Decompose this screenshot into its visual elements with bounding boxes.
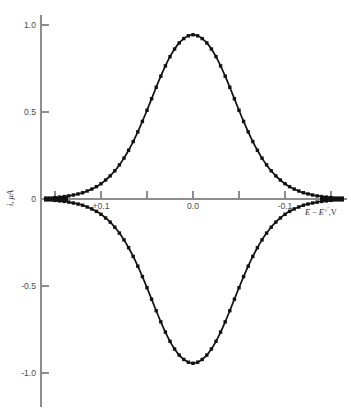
- cathodic-data-point: [113, 225, 116, 228]
- anodic-data-point: [104, 178, 107, 181]
- cathodic-data-point: [196, 361, 199, 364]
- anodic-data-point: [150, 97, 153, 100]
- x-axis-title-e1: E: [304, 208, 310, 217]
- anodic-data-point: [196, 34, 199, 37]
- anodic-data-point: [95, 185, 98, 188]
- y-axis-tick-label: -1.0: [21, 368, 36, 378]
- y-axis-tick-labels: 1.00.50-0.5-1.0: [21, 20, 36, 378]
- anodic-data-point: [127, 149, 130, 152]
- anodic-data-point: [237, 109, 240, 112]
- cathodic-data-point: [316, 200, 319, 203]
- anodic-data-point: [306, 192, 309, 195]
- x-axis-ticks: [55, 191, 331, 199]
- cathodic-data-point: [219, 330, 222, 333]
- anodic-data-point: [297, 189, 300, 192]
- anodic-data-point: [210, 47, 213, 50]
- anodic-data-point: [86, 189, 89, 192]
- y-axis-title: i, μA: [6, 189, 15, 206]
- cathodic-data-point: [141, 275, 144, 278]
- anodic-data-point: [141, 120, 144, 123]
- cathodic-data-point: [214, 340, 217, 343]
- anodic-data-point: [81, 191, 84, 194]
- cathodic-data-point: [90, 207, 93, 210]
- anodic-data-point: [136, 130, 139, 133]
- anodic-data-point: [256, 149, 259, 152]
- anodic-data-point: [122, 156, 125, 159]
- cathodic-data-point: [293, 207, 296, 210]
- anodic-data-point: [251, 140, 254, 143]
- anodic-data-point: [265, 163, 268, 166]
- cathodic-data-point: [104, 216, 107, 219]
- cathodic-data-point: [132, 255, 135, 258]
- cathodic-data-point: [99, 213, 102, 216]
- anodic-data-point: [90, 187, 93, 190]
- anodic-data-point: [260, 156, 263, 159]
- anodic-data-point: [274, 174, 277, 177]
- anodic-data-point: [228, 86, 231, 89]
- cathodic-data-point: [168, 340, 171, 343]
- cathodic-data-point: [95, 210, 98, 213]
- x-axis-title: E−E○′,V: [304, 206, 337, 217]
- x-axis-tick-labels: +0.10.0-0.1: [93, 201, 293, 211]
- cathodic-data-point: [201, 358, 204, 361]
- anodic-data-point: [109, 174, 112, 177]
- anodic-data-point: [99, 182, 102, 185]
- cathodic-data-point: [118, 231, 121, 234]
- anodic-data-point: [302, 191, 305, 194]
- cathodic-data-point: [283, 213, 286, 216]
- cathodic-data-point: [247, 264, 250, 267]
- x-axis-tick-label: 0.0: [187, 201, 199, 211]
- cathodic-wave-curve: [46, 200, 340, 363]
- anodic-data-point: [182, 37, 185, 40]
- anodic-data-point: [247, 130, 250, 133]
- cathodic-data-point: [182, 358, 185, 361]
- anodic-data-point: [279, 178, 282, 181]
- anodic-data-point: [214, 55, 217, 58]
- anodic-data-point: [201, 37, 204, 40]
- y-axis-tick-label: -0.5: [21, 281, 36, 291]
- cathodic-data-point: [256, 246, 259, 249]
- anodic-data-point: [316, 194, 319, 197]
- cathodic-data-point: [191, 362, 194, 365]
- cathodic-data-markers: [53, 199, 332, 365]
- cathodic-data-point: [127, 246, 130, 249]
- anodic-data-point: [219, 64, 222, 67]
- cathodic-data-point: [86, 205, 89, 208]
- cathodic-data-point: [274, 220, 277, 223]
- cathodic-data-point: [228, 309, 231, 312]
- anodic-data-point: [118, 163, 121, 166]
- anodic-data-point: [132, 140, 135, 143]
- cathodic-data-point: [81, 204, 84, 207]
- cathodic-data-point: [150, 298, 153, 301]
- cathodic-data-point: [159, 320, 162, 323]
- cathodic-data-point: [145, 286, 148, 289]
- cathodic-data-point: [302, 204, 305, 207]
- anodic-data-point: [293, 187, 296, 190]
- anodic-data-point: [178, 41, 181, 44]
- cathodic-data-point: [72, 201, 75, 204]
- anodic-data-point: [270, 169, 273, 172]
- cathodic-data-point: [155, 309, 158, 312]
- anodic-data-point: [187, 34, 190, 37]
- cathodic-data-point: [251, 255, 254, 258]
- voltammogram-plot: 1.00.50-0.5-1.0 +0.10.0-0.1 i, μA E−E○′,…: [0, 0, 351, 415]
- cathodic-data-point: [265, 231, 268, 234]
- cathodic-data-point: [109, 220, 112, 223]
- y-axis-tick-label: 0: [31, 194, 36, 204]
- anodic-data-point: [168, 55, 171, 58]
- anodic-data-point: [283, 182, 286, 185]
- cathodic-data-point: [260, 238, 263, 241]
- cathodic-data-point: [288, 210, 291, 213]
- cathodic-data-point: [233, 298, 236, 301]
- cathodic-data-point: [76, 202, 79, 205]
- cathodic-data-point: [297, 205, 300, 208]
- cathodic-data-point: [210, 347, 213, 350]
- anodic-data-point: [191, 33, 194, 36]
- cathodic-data-point: [279, 216, 282, 219]
- cathodic-data-point: [242, 275, 245, 278]
- anodic-data-point: [242, 120, 245, 123]
- y-axis-tick-label: 1.0: [24, 20, 36, 30]
- chart-figure: 1.00.50-0.5-1.0 +0.10.0-0.1 i, μA E−E○′,…: [0, 0, 351, 415]
- anodic-data-point: [72, 193, 75, 196]
- cathodic-data-point: [173, 347, 176, 350]
